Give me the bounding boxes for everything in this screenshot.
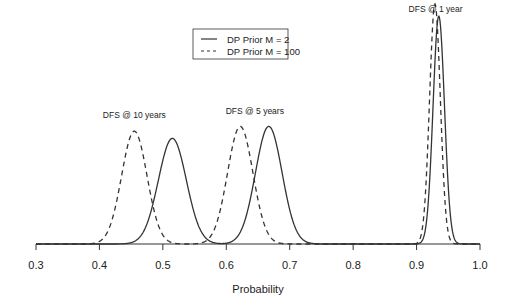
x-tick-label: 0.8: [345, 259, 360, 271]
x-tick-label: 0.7: [282, 259, 297, 271]
x-tick-label: 0.5: [155, 259, 170, 271]
legend-label: DP Prior M = 100: [227, 46, 300, 57]
x-tick-label: 0.6: [219, 259, 234, 271]
x-tick-label: 0.3: [28, 259, 43, 271]
annotation-label: DFS @ 1 year: [409, 4, 463, 14]
x-tick-label: 1.0: [472, 259, 487, 271]
legend-label: DP Prior M = 2: [227, 34, 289, 45]
annotation-label: DFS @ 10 years: [103, 110, 166, 120]
x-axis-label: Probability: [232, 283, 284, 295]
annotation-label: DFS @ 5 years: [226, 106, 284, 116]
density-chart: 0.30.40.50.60.70.80.91.0ProbabilityDFS @…: [0, 0, 516, 306]
x-tick-label: 0.4: [92, 259, 107, 271]
x-tick-label: 0.9: [409, 259, 424, 271]
